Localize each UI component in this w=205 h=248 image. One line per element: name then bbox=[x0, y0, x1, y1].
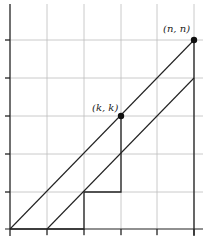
axes bbox=[5, 4, 203, 236]
point-n-n bbox=[191, 37, 197, 43]
diagonal-lines bbox=[10, 40, 194, 229]
lattice-diagram: (k, k) (n, n) bbox=[0, 0, 205, 248]
lattice-path bbox=[10, 40, 194, 236]
label-n-n: (n, n) bbox=[163, 23, 190, 34]
grid bbox=[5, 4, 203, 236]
label-k-k: (k, k) bbox=[92, 102, 118, 113]
point-k-k bbox=[118, 113, 124, 119]
